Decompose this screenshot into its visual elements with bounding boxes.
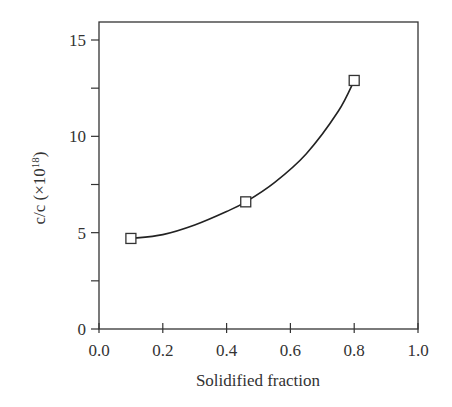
square-marker [241, 197, 251, 207]
x-tick-label: 0.4 [216, 341, 238, 360]
y-axis-label: c/c (×1018) [29, 152, 49, 225]
y-tick-label: 15 [69, 31, 86, 50]
chart: 051015 0.00.20.40.60.81.0 Solidified fra… [0, 0, 452, 407]
x-tick-label: 0.2 [152, 341, 173, 360]
y-tick-label: 5 [78, 224, 87, 243]
y-axis: 051015 [69, 31, 99, 339]
square-marker [126, 233, 136, 243]
y-tick-label: 10 [69, 127, 86, 146]
fit-curve [131, 80, 354, 238]
y-tick-label: 0 [78, 320, 87, 339]
plot-frame [99, 22, 418, 329]
x-tick-label: 0.6 [280, 341, 301, 360]
x-tick-label: 0.8 [344, 341, 365, 360]
x-tick-label: 0.0 [88, 341, 109, 360]
square-marker [349, 75, 359, 85]
x-axis-label: Solidified fraction [196, 371, 321, 390]
x-tick-label: 1.0 [407, 341, 428, 360]
data-markers [126, 75, 359, 243]
